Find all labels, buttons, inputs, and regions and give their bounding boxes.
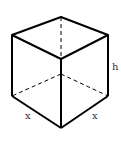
label-height: h xyxy=(112,61,119,72)
edge-bottom-right xyxy=(61,96,108,128)
hidden-edge-right xyxy=(61,74,108,96)
top-face xyxy=(12,17,108,59)
edge-bottom-left xyxy=(12,96,61,128)
cube-diagram: h x x xyxy=(0,0,121,142)
label-base-left: x xyxy=(25,110,31,121)
label-base-right: x xyxy=(92,110,98,121)
hidden-edge-left xyxy=(12,74,61,96)
